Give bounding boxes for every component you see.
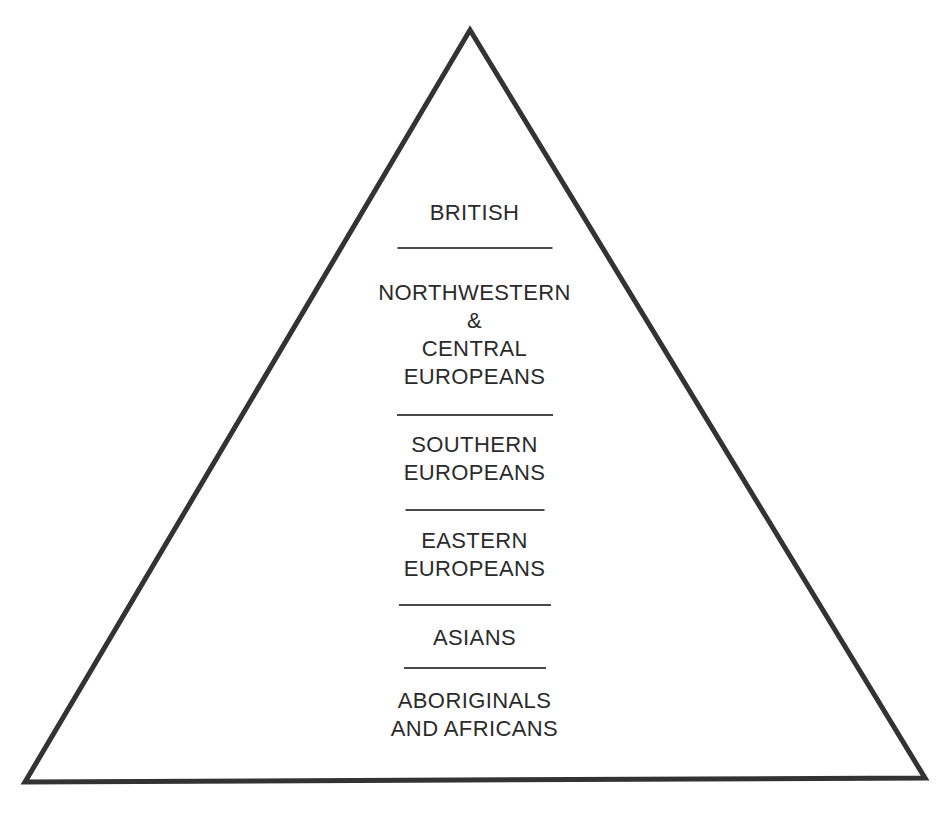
tier-divider-5: [404, 667, 546, 669]
tier-divider-2: [397, 414, 553, 416]
pyramid-triangle-shape: [25, 30, 925, 782]
tier-label-aboriginals-and-africans: ABORIGINALS AND AFRICANS: [265, 687, 685, 743]
pyramid-diagram: BRITISH NORTHWESTERN & CENTRAL EUROPEANS…: [0, 0, 949, 821]
pyramid-tier-british: BRITISH: [265, 199, 685, 227]
pyramid-tier-eastern-europeans: EASTERN EUROPEANS: [265, 527, 685, 583]
pyramid-tier-asians: ASIANS: [265, 624, 685, 652]
pyramid-tier-aboriginals-and-africans: ABORIGINALS AND AFRICANS: [265, 687, 685, 743]
tier-divider-3: [405, 509, 544, 511]
tier-label-asians: ASIANS: [265, 624, 685, 652]
tier-divider-1: [397, 247, 552, 249]
tier-label-eastern-europeans: EASTERN EUROPEANS: [265, 527, 685, 583]
tier-label-southern-europeans: SOUTHERN EUROPEANS: [265, 431, 685, 487]
tier-divider-4: [399, 604, 551, 606]
pyramid-tier-northwestern-central-europeans: NORTHWESTERN & CENTRAL EUROPEANS: [265, 279, 685, 391]
tier-label-british: BRITISH: [265, 199, 685, 227]
tier-label-northwestern-central-europeans: NORTHWESTERN & CENTRAL EUROPEANS: [265, 279, 685, 391]
pyramid-tier-southern-europeans: SOUTHERN EUROPEANS: [265, 431, 685, 487]
